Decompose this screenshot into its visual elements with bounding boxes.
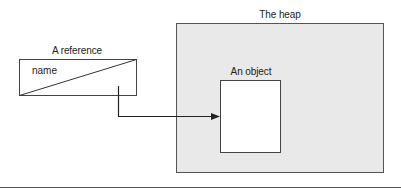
reference-field-name: name xyxy=(32,65,57,76)
object-box xyxy=(221,81,281,153)
heap-label: The heap xyxy=(259,9,300,20)
object-label: An object xyxy=(231,66,272,77)
diagram-canvas xyxy=(0,0,401,190)
reference-label: A reference xyxy=(52,45,102,56)
